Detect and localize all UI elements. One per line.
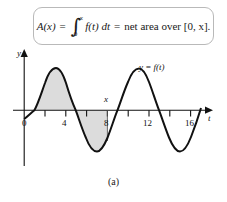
shaded-region-positive — [34, 68, 75, 110]
tick-label-8: 8 — [104, 118, 109, 128]
t-axis-label: t — [208, 113, 211, 123]
x-marker-label: x — [104, 94, 108, 104]
shaded-region-negative — [76, 110, 107, 151]
figure-caption: (a) — [0, 176, 227, 187]
y-axis-arrow-icon — [21, 49, 28, 57]
curve-label: y = f(t) — [139, 62, 165, 72]
plot-svg — [0, 0, 227, 202]
tick-label-12: 12 — [143, 118, 152, 128]
tick-label-4: 4 — [62, 118, 67, 128]
tick-label-0: 0 — [22, 118, 27, 128]
y-axis-label: y — [17, 48, 21, 58]
figure-container: A(x) = x ∫ 0 f(t) dt = net area over [0,… — [0, 0, 227, 202]
tick-label-16: 16 — [185, 118, 194, 128]
